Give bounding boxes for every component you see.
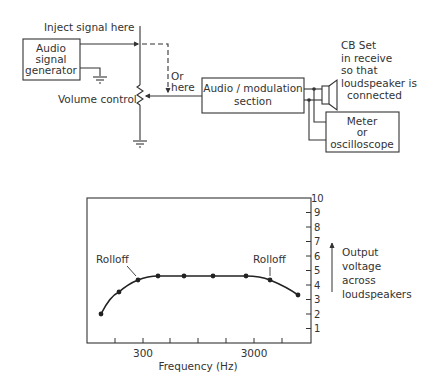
svg-text:5: 5 [314, 265, 320, 276]
svg-text:connected: connected [347, 89, 402, 101]
svg-text:7: 7 [314, 236, 320, 247]
svg-text:300: 300 [133, 347, 153, 359]
frequency-response-chart: 1 2 3 4 5 6 7 8 9 10 300 3000 Frequency … [87, 193, 412, 372]
svg-text:in receive: in receive [341, 52, 392, 64]
svg-text:or: or [357, 126, 368, 138]
svg-text:10: 10 [311, 193, 324, 204]
x-axis-label: Frequency (Hz) [158, 360, 237, 372]
svg-text:9: 9 [314, 207, 320, 218]
svg-text:loudspeakers: loudspeakers [342, 288, 412, 300]
svg-text:here: here [171, 81, 195, 93]
svg-text:8: 8 [314, 222, 320, 233]
svg-text:Output: Output [342, 246, 378, 258]
svg-text:3: 3 [314, 294, 320, 305]
svg-text:across: across [342, 274, 376, 286]
svg-text:section: section [234, 95, 272, 107]
svg-text:3000: 3000 [241, 347, 268, 359]
svg-text:1: 1 [314, 323, 320, 334]
svg-text:loudspeaker is: loudspeaker is [341, 77, 417, 89]
svg-text:Audio / modulation: Audio / modulation [203, 82, 303, 94]
svg-text:2: 2 [314, 309, 320, 320]
svg-text:4: 4 [314, 280, 320, 291]
inject-label: Inject signal here [44, 21, 134, 33]
svg-text:CB Set: CB Set [341, 39, 376, 51]
rolloff-annotation-low: Rolloff [96, 253, 130, 265]
svg-text:oscilloscope: oscilloscope [330, 138, 394, 150]
svg-text:so that: so that [341, 64, 378, 76]
svg-text:generator: generator [25, 64, 78, 76]
rolloff-annotation-high: Rolloff [253, 253, 287, 265]
volume-control-label: Volume control [58, 93, 137, 105]
svg-text:6: 6 [314, 251, 320, 262]
svg-text:voltage: voltage [342, 260, 381, 272]
figure: Inject signal here Audio signal generato… [0, 0, 427, 383]
